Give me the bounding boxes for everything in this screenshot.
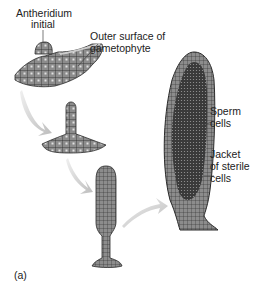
arrow-2 — [66, 158, 93, 194]
antheridium-initial-label-2: initial — [31, 19, 55, 30]
stage-4-mature-antheridium — [164, 52, 218, 230]
sperm-cells-label-1: Sperm — [210, 106, 241, 117]
jacket-label-3: cells — [210, 173, 231, 184]
stage-3-antheridium — [92, 166, 122, 268]
stage-2-antheridium — [42, 102, 106, 153]
jacket-label-1: Jacket — [210, 149, 240, 160]
arrow-3 — [122, 198, 168, 228]
outer-surface-label-1: Outer surface of — [90, 31, 165, 42]
arrow-1 — [20, 90, 52, 136]
panel-label: (a) — [14, 270, 27, 281]
sperm-cells-label-2: cells — [210, 118, 231, 129]
outer-surface-label-2: gametophyte — [90, 43, 151, 54]
jacket-label-2: of sterile — [210, 161, 250, 172]
